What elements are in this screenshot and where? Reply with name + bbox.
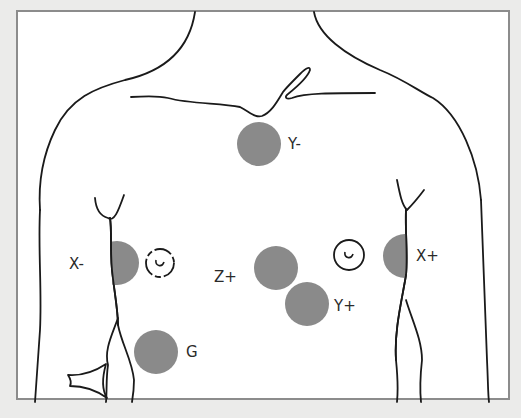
right-armpit-outline <box>397 180 424 210</box>
left-hand-outline <box>68 364 107 398</box>
right-shoulder-outline <box>314 12 481 200</box>
electrode-z-plus <box>254 246 298 290</box>
nipple-left-of-patient <box>334 240 364 270</box>
electrode-y-plus <box>285 282 329 326</box>
electrode-x-minus <box>95 241 139 285</box>
diagram-stage: Y- X- Z+ X+ Y+ G <box>0 0 521 418</box>
electrode-label-y-plus: Y+ <box>334 299 356 314</box>
torso-outline-illustration <box>0 0 521 418</box>
electrode-y-minus <box>237 122 281 166</box>
electrode-label-z-plus: Z+ <box>214 270 237 285</box>
nipple-right-of-patient <box>146 249 174 277</box>
left-inner-arm-line <box>106 318 118 402</box>
right-inner-arm-line <box>406 300 422 402</box>
electrode-g <box>134 330 178 374</box>
left-arm-outline <box>35 210 41 402</box>
electrode-label-x-minus: X- <box>69 257 84 272</box>
electrode-label-x-plus: X+ <box>416 249 439 264</box>
electrode-label-g: G <box>186 345 198 360</box>
left-shoulder-outline <box>40 12 195 210</box>
electrode-label-y-minus: Y- <box>288 137 301 152</box>
right-arm-outline <box>481 200 489 402</box>
clavicle-line <box>131 68 375 116</box>
left-armpit-outline <box>95 195 124 219</box>
